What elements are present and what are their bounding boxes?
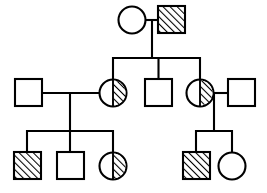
generation3-male-affected-left[interactable] <box>14 152 41 179</box>
generation3-male-affected-right[interactable] <box>183 152 210 179</box>
generation1-male-affected[interactable] <box>158 6 185 33</box>
pedigree-diagram <box>0 0 267 193</box>
generation3-female-unaffected[interactable] <box>219 153 246 180</box>
generation2-female-carrier-left[interactable] <box>100 80 127 107</box>
generation2-male-unaffected-middle[interactable] <box>145 79 172 106</box>
generation2-male-spouse-left[interactable] <box>15 79 42 106</box>
generation2-male-spouse-right[interactable] <box>228 79 255 106</box>
generation3-male-unaffected[interactable] <box>57 152 84 179</box>
generation2-female-carrier-right[interactable] <box>187 80 214 107</box>
generation-3-group <box>14 152 246 180</box>
generation3-female-carrier[interactable] <box>100 153 127 180</box>
pedigree-canvas <box>0 0 267 193</box>
generation1-female-unaffected[interactable] <box>119 7 146 34</box>
